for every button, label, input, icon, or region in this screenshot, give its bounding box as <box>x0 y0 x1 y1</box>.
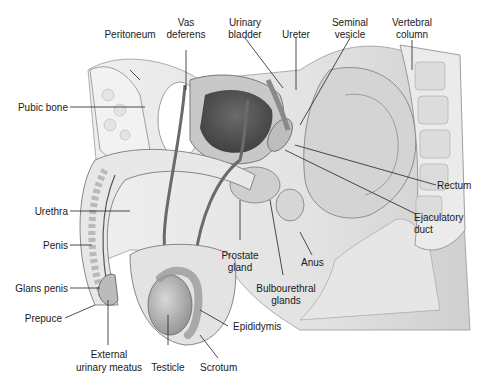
label-ejaculatory-duct-line2: duct <box>414 224 433 235</box>
testicle <box>148 275 192 335</box>
anatomy-diagram: Peritoneum Vas deferens Urinary bladder … <box>0 0 481 380</box>
label-ureter: Ureter <box>276 29 316 40</box>
label-external-urinary-meatus-line1: External <box>74 349 144 360</box>
label-vas-deferens-line1: Vas <box>160 17 212 28</box>
label-prostate-gland-line2: gland <box>214 262 266 273</box>
label-testicle: Testicle <box>148 362 188 373</box>
label-rectum: Rectum <box>437 180 471 191</box>
label-external-urinary-meatus-line2: urinary meatus <box>70 362 148 373</box>
label-scrotum: Scrotum <box>200 362 237 373</box>
label-seminal-vesicle-line1: Seminal <box>322 17 378 28</box>
label-epididymis: Epididymis <box>233 321 281 332</box>
label-anus: Anus <box>301 257 324 268</box>
label-seminal-vesicle-line2: vesicle <box>322 29 378 40</box>
label-vas-deferens-line2: deferens <box>160 29 212 40</box>
label-urinary-bladder-line1: Urinary <box>218 17 272 28</box>
label-bulbourethral-glands-line2: glands <box>252 295 320 306</box>
label-pubic-bone: Pubic bone <box>0 102 68 113</box>
label-prostate-gland-line1: Prostate <box>214 250 266 261</box>
label-urethra: Urethra <box>0 206 68 217</box>
label-peritoneum: Peritoneum <box>100 29 160 40</box>
label-penis: Penis <box>0 240 68 251</box>
label-prepuce: Prepuce <box>0 313 62 324</box>
label-glans-penis: Glans penis <box>0 283 68 294</box>
label-vertebral-column-line2: column <box>382 29 442 40</box>
label-ejaculatory-duct-line1: Ejaculatory <box>414 212 463 223</box>
label-vertebral-column-line1: Vertebral <box>382 17 442 28</box>
label-bulbourethral-glands-line1: Bulbourethral <box>252 283 320 294</box>
label-urinary-bladder-line2: bladder <box>218 29 272 40</box>
